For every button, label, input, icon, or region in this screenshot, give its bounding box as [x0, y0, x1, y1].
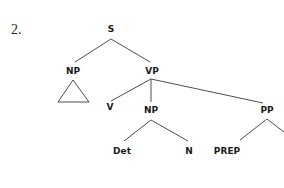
node-s: S: [108, 25, 114, 34]
edge-np-det: [124, 120, 151, 141]
node-pp: PP: [260, 106, 273, 115]
edge-s-vp: [111, 39, 150, 62]
edge-s-np: [75, 39, 111, 62]
node-v: V: [107, 103, 114, 112]
edge-np-n: [151, 120, 188, 141]
node-n: N: [185, 147, 193, 156]
edge-vp-pp: [151, 79, 263, 103]
example-number: 2.: [11, 23, 22, 37]
edge-pp-prep: [240, 119, 267, 140]
node-np-object: NP: [144, 106, 158, 115]
node-prep: PREP: [214, 147, 240, 156]
node-det: Det: [113, 147, 131, 156]
node-np-subject: NP: [66, 67, 80, 76]
edge-pp-clipped: [267, 119, 284, 132]
edge-vp-v: [111, 79, 151, 101]
tree-diagram: 2. S NP VP V NP PP Det N PREP: [0, 0, 284, 188]
np-triangle: [58, 80, 89, 102]
tree-edges: [0, 0, 284, 188]
node-vp: VP: [145, 67, 159, 76]
